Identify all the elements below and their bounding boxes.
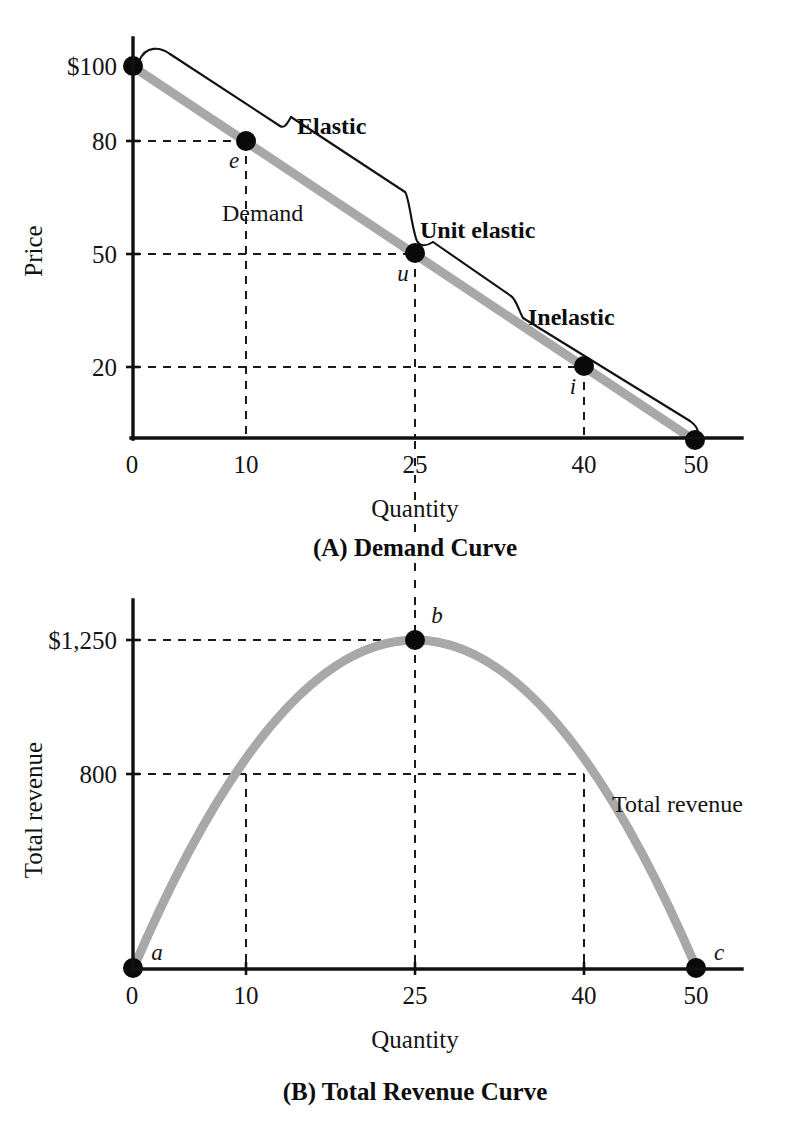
panel-a-caption: (A) Demand Curve <box>313 534 517 562</box>
panel-b-y-axis-title: Total revenue <box>20 742 47 878</box>
point-q50 <box>685 430 705 450</box>
unit-elastic-label: Unit elastic <box>420 217 536 243</box>
panel-b-xtick-10: 10 <box>234 982 259 1009</box>
panel-a-ytick-100: $100 <box>67 53 117 80</box>
panel-b-ytick-1250: $1,250 <box>48 627 117 654</box>
panel-b-xtick-40: 40 <box>572 982 597 1009</box>
economics-figure: $100 80 50 20 0 10 25 40 50 e u i Demand… <box>0 0 802 1144</box>
inelastic-label: Inelastic <box>528 304 615 330</box>
panel-a-ytick-50: 50 <box>92 241 117 268</box>
panel-a-point-i-label: i <box>570 374 576 399</box>
demand-curve-label: Demand <box>222 200 303 226</box>
panel-b-total-revenue-curve: $1,250 800 0 10 25 40 50 a b c Total rev… <box>20 600 743 1106</box>
panel-b-caption: (B) Total Revenue Curve <box>283 1078 548 1106</box>
panel-a-xtick-10: 10 <box>234 451 259 478</box>
panel-a-point-u-label: u <box>397 261 409 286</box>
point-i <box>574 356 594 376</box>
panel-b-xtick-50: 50 <box>684 982 709 1009</box>
panel-b-dashed-guides <box>133 610 584 969</box>
panel-a-xtick-40: 40 <box>572 451 597 478</box>
elastic-label: Elastic <box>297 113 367 139</box>
panel-a-dashed-guides <box>133 141 584 437</box>
panel-a-ytick-80: 80 <box>92 128 117 155</box>
panel-b-point-c-label: c <box>714 940 724 965</box>
panel-a-xtick-0: 0 <box>126 451 139 478</box>
panel-a-demand-curve: $100 80 50 20 0 10 25 40 50 e u i Demand… <box>20 38 742 562</box>
panel-b-xtick-25: 25 <box>403 982 428 1009</box>
panel-a-ytick-20: 20 <box>92 354 117 381</box>
panel-b-point-a-label: a <box>151 940 163 965</box>
panel-b-point-b-label: b <box>431 603 443 628</box>
panel-b-ytick-800: 800 <box>80 761 118 788</box>
panel-a-y-axis-title: Price <box>20 225 47 276</box>
total-revenue-curve-label: Total revenue <box>612 791 743 817</box>
panel-a-point-e-label: e <box>229 148 239 173</box>
panel-a-xtick-50: 50 <box>684 451 709 478</box>
point-u <box>405 243 425 263</box>
point-b <box>405 630 425 650</box>
panel-b-xtick-0: 0 <box>126 982 139 1009</box>
panel-b-x-axis-title: Quantity <box>371 1026 459 1053</box>
